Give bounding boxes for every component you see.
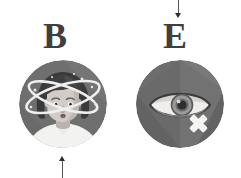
vision-loss-icon xyxy=(136,60,224,148)
panel-label-b: B xyxy=(43,18,67,54)
pupil-right xyxy=(69,103,72,106)
leader-line-bottom-stem xyxy=(62,161,63,178)
mouth xyxy=(60,114,65,118)
vision-loss-illustration xyxy=(136,60,224,148)
eye-highlight xyxy=(177,100,181,104)
figure-root: B E xyxy=(0,0,241,178)
dizziness-vertigo-icon xyxy=(19,60,107,148)
panel-label-e: E xyxy=(163,18,187,54)
dizziness-vertigo-illustration xyxy=(19,60,107,148)
leader-line-top-stem xyxy=(178,0,179,14)
